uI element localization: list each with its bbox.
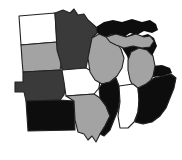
state-south-dakota[interactable]	[21, 42, 62, 72]
state-kansas[interactable]	[26, 100, 75, 131]
state-nebraska[interactable]	[15, 70, 66, 101]
state-north-dakota[interactable]	[19, 13, 57, 45]
map-svg-canvas	[0, 0, 182, 160]
midwest-choropleth-map	[0, 0, 182, 160]
